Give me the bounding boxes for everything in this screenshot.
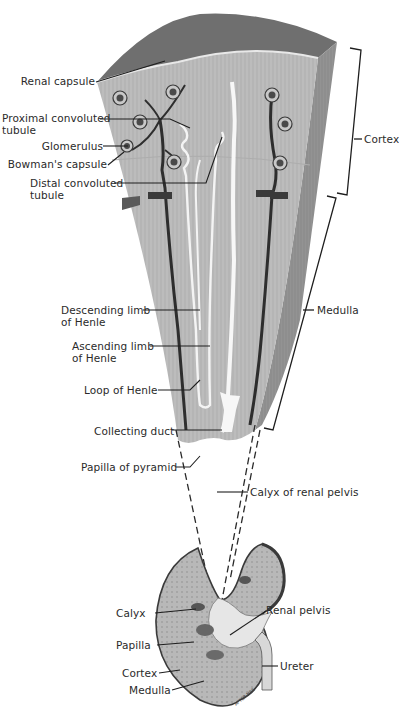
label-collecting-duct: Collecting duct (94, 425, 174, 437)
label-cortex-bracket: Cortex (364, 133, 399, 145)
label-distal-convoluted-tubule: Distal convoluted tubule (30, 177, 123, 201)
label-loop-of-henle: Loop of Henle (84, 384, 158, 396)
label-ureter: Ureter (280, 660, 314, 672)
label-papilla-of-pyramid: Papilla of pyramid (81, 461, 177, 473)
label-calyx: Calyx (116, 607, 146, 619)
label-medulla: Medulla (129, 684, 171, 696)
label-calyx-of-renal-pelvis: Calyx of renal pelvis (250, 486, 359, 498)
bracket-cortex (337, 48, 362, 195)
kidney-cross-section: AFTER NBE (156, 544, 284, 707)
label-bowmans-capsule: Bowman's capsule (8, 158, 107, 170)
pyramid-wedge (97, 14, 337, 443)
label-proximal-convoluted-tubule: Proximal convoluted tubule (2, 112, 111, 136)
label-renal-pelvis: Renal pelvis (266, 604, 330, 616)
label-cortex: Cortex (122, 667, 157, 679)
label-renal-capsule: Renal capsule (21, 75, 95, 87)
label-descending-limb-of-henle: Descending limb of Henle (61, 304, 150, 328)
label-papilla: Papilla (116, 639, 151, 651)
label-ascending-limb-of-henle: Ascending limb of Henle (72, 340, 154, 364)
label-glomerulus: Glomerulus (42, 140, 103, 152)
label-medulla-bracket: Medulla (317, 304, 359, 316)
